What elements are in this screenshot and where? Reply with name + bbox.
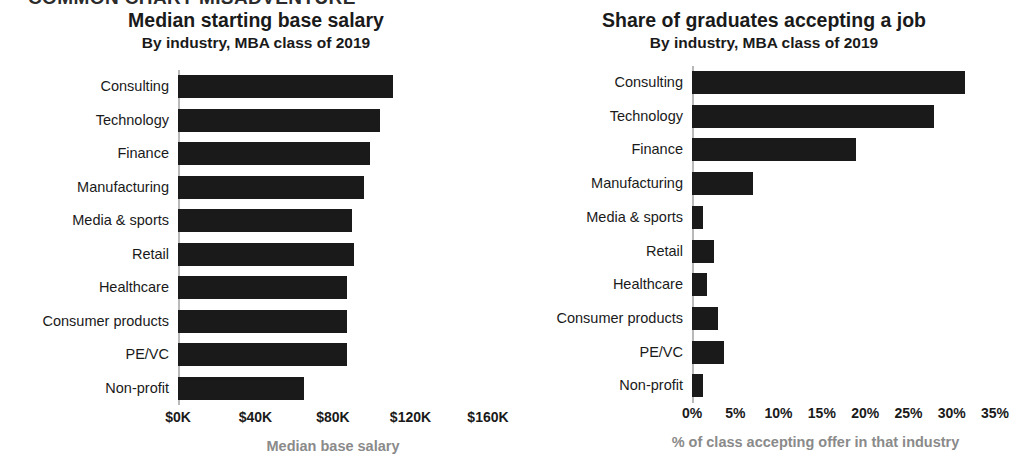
bar-row: Healthcare (178, 271, 488, 305)
x-tick-label: $80K (316, 409, 349, 425)
category-label-non-profit: Non-profit (619, 374, 683, 397)
bar-row: Non-profit (178, 372, 488, 406)
bar-healthcare (692, 273, 707, 296)
x-tick-label: 20% (851, 405, 879, 421)
bar-row: Non-profit (692, 369, 995, 403)
category-label-consumer-products: Consumer products (42, 310, 169, 333)
category-label-pe-vc: PE/VC (125, 343, 169, 366)
bar-pe-vc (178, 343, 347, 366)
bar-row: Finance (692, 133, 995, 167)
bar-media-sports (692, 206, 703, 229)
category-label-consumer-products: Consumer products (556, 307, 683, 330)
category-label-finance: Finance (117, 142, 169, 165)
category-label-manufacturing: Manufacturing (77, 176, 169, 199)
x-tick-label: $40K (239, 409, 272, 425)
category-label-retail: Retail (646, 240, 683, 263)
bar-retail (692, 240, 714, 263)
category-label-consulting: Consulting (100, 75, 169, 98)
bar-row: Media & sports (692, 201, 995, 235)
bar-row: Retail (178, 238, 488, 272)
bar-consumer-products (692, 307, 718, 330)
category-label-healthcare: Healthcare (613, 273, 683, 296)
bar-retail (178, 243, 354, 266)
bar-finance (178, 142, 370, 165)
bar-technology (692, 105, 934, 128)
x-axis-title: Median base salary (178, 438, 488, 454)
category-label-non-profit: Non-profit (105, 377, 169, 400)
x-tick-label: $160K (467, 409, 508, 425)
category-label-finance: Finance (631, 138, 683, 161)
category-label-technology: Technology (96, 109, 169, 132)
chart-subtitle-salary: By industry, MBA class of 2019 (0, 34, 512, 52)
bar-finance (692, 138, 856, 161)
bar-manufacturing (692, 172, 753, 195)
bar-row: Consulting (178, 70, 488, 104)
category-label-healthcare: Healthcare (99, 276, 169, 299)
x-tick-label: 15% (808, 405, 836, 421)
chart-subtitle-share: By industry, MBA class of 2019 (512, 34, 1016, 52)
bar-consulting (178, 75, 393, 98)
category-label-media-sports: Media & sports (72, 209, 169, 232)
x-tick-label: $120K (390, 409, 431, 425)
bar-row: Media & sports (178, 204, 488, 238)
chart-title-salary: Median starting base salary (0, 9, 512, 32)
x-tick-label: 25% (894, 405, 922, 421)
bar-row: Finance (178, 137, 488, 171)
bar-row: Consumer products (692, 302, 995, 336)
chart-panel-salary: Median starting base salary By industry,… (0, 0, 512, 463)
x-tick-label: 30% (938, 405, 966, 421)
bar-media-sports (178, 209, 352, 232)
bar-row: Consulting (692, 66, 995, 100)
category-label-retail: Retail (132, 243, 169, 266)
bar-row: Consumer products (178, 305, 488, 339)
plot-area-share: ConsultingTechnologyFinanceManufacturing… (692, 66, 995, 403)
x-tick-label: 0% (682, 405, 702, 421)
bar-row: Technology (692, 100, 995, 134)
bar-row: PE/VC (178, 338, 488, 372)
category-label-consulting: Consulting (614, 71, 683, 94)
category-label-pe-vc: PE/VC (639, 341, 683, 364)
chart-panel-share: Share of graduates accepting a job By in… (512, 0, 1016, 463)
bar-pe-vc (692, 341, 724, 364)
category-label-media-sports: Media & sports (586, 206, 683, 229)
bar-technology (178, 109, 380, 132)
x-tick-label: 5% (725, 405, 745, 421)
bar-row: Manufacturing (692, 167, 995, 201)
bar-row: Technology (178, 104, 488, 138)
x-tick-label: 35% (981, 405, 1009, 421)
category-label-technology: Technology (610, 105, 683, 128)
bar-healthcare (178, 276, 347, 299)
bar-row: Manufacturing (178, 171, 488, 205)
bar-row: PE/VC (692, 336, 995, 370)
x-axis-title: % of class accepting offer in that indus… (622, 434, 1009, 450)
category-label-manufacturing: Manufacturing (591, 172, 683, 195)
bar-row: Healthcare (692, 268, 995, 302)
chart-title-share: Share of graduates accepting a job (512, 9, 1016, 32)
plot-area-salary: ConsultingTechnologyFinanceManufacturing… (178, 70, 488, 405)
bar-non-profit (178, 377, 304, 400)
x-tick-label: 10% (765, 405, 793, 421)
bar-non-profit (692, 374, 703, 397)
bar-row: Retail (692, 235, 995, 269)
bar-consumer-products (178, 310, 347, 333)
bar-manufacturing (178, 176, 364, 199)
x-tick-label: $0K (165, 409, 191, 425)
bar-consulting (692, 71, 965, 94)
